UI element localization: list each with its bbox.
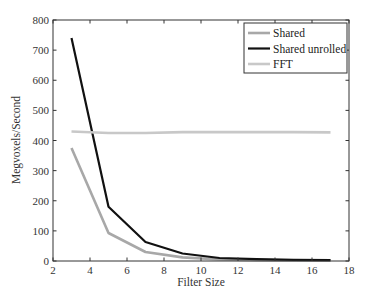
series-line-fft [72,132,331,134]
x-tick-label: 14 [270,264,282,276]
y-tick-label: 100 [33,225,50,237]
x-axis-label: Filter Size [177,276,225,288]
x-tick-label: 6 [124,264,130,276]
x-tick-label: 12 [233,264,244,276]
y-tick-label: 500 [33,104,50,116]
y-tick-label: 400 [33,135,50,147]
x-tick-label: 18 [344,264,356,276]
x-tick-label: 4 [87,264,93,276]
legend: SharedShared unrolledFFT [244,23,347,73]
legend-label: Shared unrolled [273,43,346,55]
y-tick-label: 200 [33,195,50,207]
line-chart: 246810121416180100200300400500600700800 … [0,0,371,299]
legend-label: Shared [273,27,305,39]
y-tick-label: 300 [33,165,50,177]
y-tick-label: 0 [44,255,50,267]
y-axis-label: Megvoxels/Second [10,96,23,184]
y-tick-label: 800 [33,14,50,26]
y-tick-label: 700 [33,44,50,56]
x-tick-label: 2 [50,264,56,276]
x-tick-label: 8 [161,264,167,276]
y-tick-label: 600 [33,74,50,86]
x-tick-label: 10 [196,264,208,276]
series-line-shared [72,148,331,260]
x-tick-label: 16 [307,264,319,276]
legend-label: FFT [273,58,293,70]
